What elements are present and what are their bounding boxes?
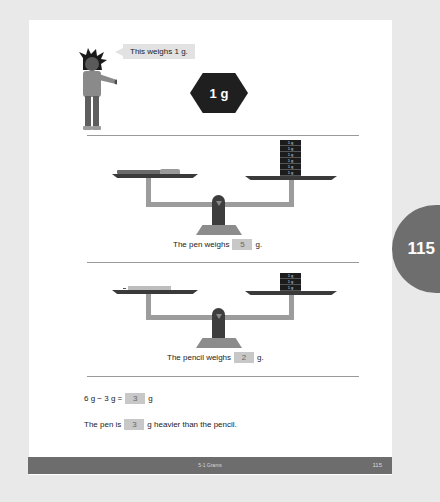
section-title: 5-1 Grams	[28, 457, 392, 474]
gram-weight-stack: 1 g 1 g 1 g 1 g 1 g 1 g	[280, 140, 301, 176]
section-divider	[87, 376, 359, 377]
speech-bubble-text: This weighs 1 g.	[130, 47, 188, 56]
scale-post	[212, 308, 225, 338]
gram-weight-stack: 1 g 1 g 1 g	[280, 273, 301, 291]
pen-answer-box[interactable]: 5	[232, 239, 252, 250]
speech-bubble: This weighs 1 g.	[123, 44, 195, 59]
pencil-tip	[123, 288, 126, 289]
section-divider	[87, 135, 359, 136]
one-gram-weight: 1 g	[190, 73, 248, 113]
scale-base	[196, 338, 242, 348]
comparison-suffix: g heavier than the pencil.	[147, 420, 236, 429]
pen-cap	[160, 169, 180, 174]
unit-text: g	[148, 394, 152, 403]
pencil-illustration	[128, 286, 171, 290]
weight-label: 1 g	[210, 86, 229, 101]
equation-text: 6 g − 3 g =	[84, 394, 122, 403]
page-number-tab-text: 115	[408, 239, 435, 259]
page-footer: 5-1 Grams 115	[28, 457, 392, 474]
difference-answer-box[interactable]: 3	[125, 393, 145, 404]
pointer-icon	[216, 314, 222, 319]
sentence-text: The pen weighs	[173, 240, 229, 249]
left-pan	[112, 290, 198, 294]
balance-scale-pencil: 1 g 1 g 1 g The pencil weighs 2 g.	[29, 265, 392, 380]
scale-base	[196, 225, 242, 235]
comparison-answer-box[interactable]: 3	[124, 419, 144, 430]
left-pan	[112, 174, 198, 178]
pointer-icon	[216, 201, 222, 206]
footer-page-number: 115	[372, 457, 382, 474]
workbook-page: This weighs 1 g. 1 g 1 g 1 g 1 g 1 g 1 g…	[29, 20, 392, 475]
unit-text: g.	[255, 240, 262, 249]
section-divider	[87, 262, 359, 263]
comparison-prefix: The pen is	[84, 420, 121, 429]
balance-scale-pen: 1 g 1 g 1 g 1 g 1 g 1 g The pen weighs 5…	[29, 138, 392, 263]
page-number-tab: 115	[392, 205, 440, 293]
subtraction-equation: 6 g − 3 g = 3 g	[84, 393, 153, 404]
comparison-sentence: The pen is 3 g heavier than the pencil.	[84, 419, 237, 430]
unit-text: g.	[257, 353, 264, 362]
pencil-weight-sentence: The pencil weighs 2 g.	[167, 352, 264, 363]
gram-block: 1 g	[280, 285, 301, 291]
gram-block: 1 g	[280, 170, 301, 176]
pencil-answer-box[interactable]: 2	[234, 352, 254, 363]
child-character-illustration	[77, 48, 117, 133]
pen-weight-sentence: The pen weighs 5 g.	[173, 239, 262, 250]
scale-post	[212, 195, 225, 225]
sentence-text: The pencil weighs	[167, 353, 231, 362]
